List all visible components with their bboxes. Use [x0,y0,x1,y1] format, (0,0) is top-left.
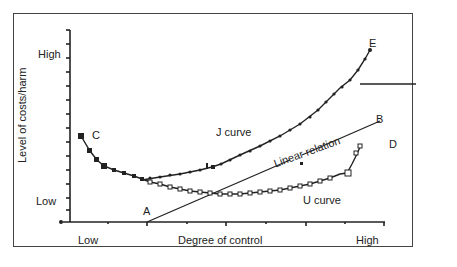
x-axis [63,222,385,226]
x-low-label: Low [78,234,98,246]
point-d-label: D [389,138,397,150]
j-curve [142,48,372,180]
point-c-label: C [92,129,100,141]
linear-break-marker [300,162,303,165]
x-axis-title: Degree of control [178,234,262,246]
y-axis-title: Level of costs/harm [16,68,28,163]
y-low-label: Low [36,195,56,207]
point-a-label: A [143,205,150,217]
y-high-label: High [38,48,61,60]
u-curve-label: U curve [303,194,341,206]
y-axis [66,30,70,222]
j-curve-label: J curve [216,126,251,138]
point-e-label: E [369,37,376,49]
point-b-label: B [376,113,383,125]
x-high-label: High [356,234,379,246]
origin-dot [59,220,63,224]
